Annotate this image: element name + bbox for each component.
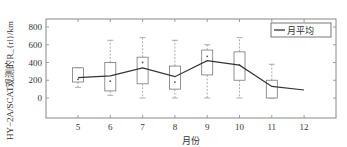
x-axis-title: 月份: [182, 135, 200, 146]
mean-marker: [174, 81, 176, 83]
box-month-8: [169, 40, 180, 98]
box-month-9: [202, 45, 213, 98]
mean-marker: [206, 55, 208, 57]
x-tick-label: 8: [173, 122, 178, 132]
box-month-6: [105, 40, 116, 95]
box-body: [105, 63, 116, 91]
x-tick-label: 5: [76, 122, 81, 132]
x-tick-label: 9: [205, 122, 210, 132]
mean-marker: [109, 80, 111, 82]
mean-marker: [142, 62, 144, 64]
box-body: [266, 80, 277, 98]
mean-marker: [77, 78, 79, 80]
boxes: [73, 38, 278, 98]
x-tick-label: 10: [235, 122, 245, 132]
y-axis-title: HY−2A/SCAT观测的R_{rl}/km: [4, 21, 15, 140]
y-tick-label: 800: [29, 22, 43, 32]
box-body: [169, 66, 180, 89]
legend: 月平均: [271, 23, 331, 37]
y-tick-label: 600: [29, 40, 43, 50]
y-tick-label: 200: [29, 75, 43, 85]
x-tick-label: 11: [267, 122, 276, 132]
x-tick-label: 12: [300, 122, 309, 132]
x-tick-label: 6: [108, 122, 113, 132]
box-month-11: [266, 64, 277, 98]
y-tick-label: 400: [29, 58, 43, 68]
box-plot-chart: 020040060080056789101112月份HY−2A/SCAT观测的R…: [0, 0, 347, 147]
legend-label: 月平均: [287, 25, 314, 36]
x-tick-label: 7: [140, 122, 145, 132]
y-tick-label: 0: [38, 93, 43, 103]
box-body: [137, 57, 148, 84]
